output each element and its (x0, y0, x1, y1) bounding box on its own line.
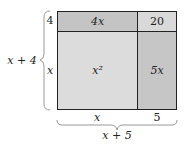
left-label-bottom: x (46, 65, 54, 77)
bottom-label-right: 5 (147, 112, 167, 124)
cell-top-right-label: 20 (150, 15, 164, 28)
left-label-total: x + 4 (6, 55, 38, 67)
cell-bottom-left: x² (57, 31, 138, 110)
cell-top-left: 4x (57, 11, 138, 32)
left-label-top: 4 (46, 15, 54, 27)
cell-top-left-label: 4x (91, 15, 104, 28)
cell-top-right: 20 (137, 11, 177, 32)
cell-bottom-right: 5x (137, 31, 177, 110)
cell-bottom-left-label: x² (92, 64, 103, 77)
bottom-label-left: x (87, 112, 107, 124)
cell-bottom-right-label: 5x (150, 64, 163, 77)
bottom-label-total: x + 5 (100, 130, 134, 142)
